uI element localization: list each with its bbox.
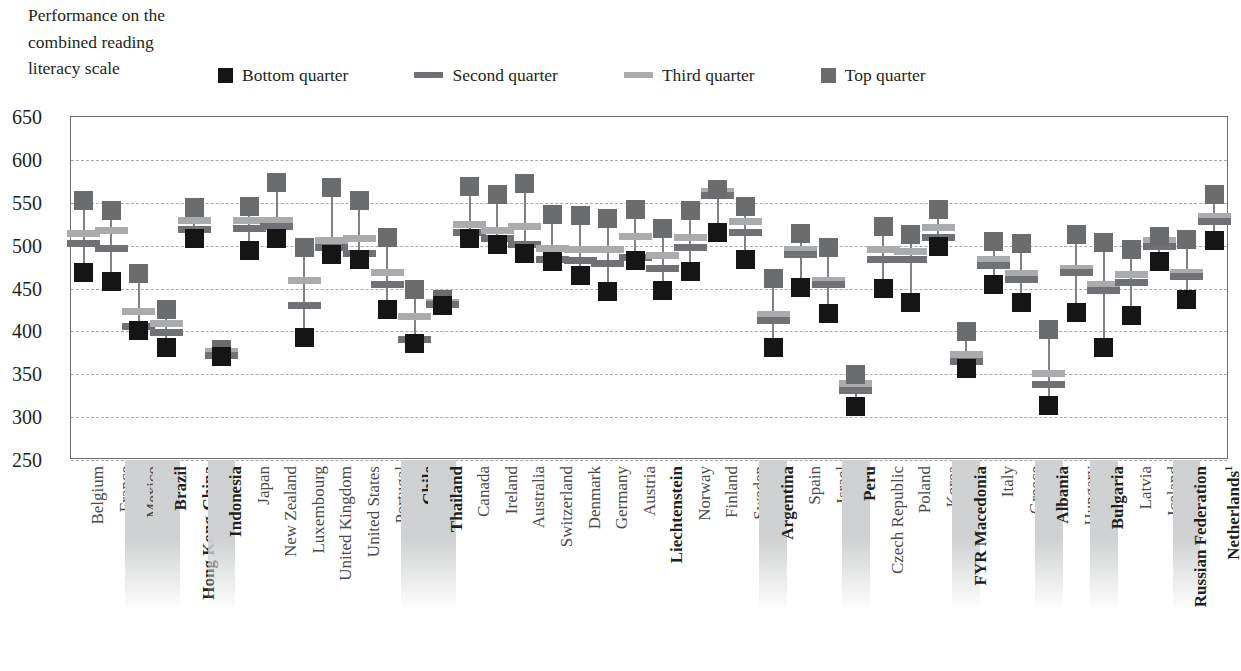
data-point-group[interactable]: [1200, 116, 1228, 459]
x-axis-label-united-kingdom[interactable]: United Kingdom: [318, 460, 346, 671]
x-axis-label-switzerland[interactable]: Switzerland: [539, 460, 567, 671]
x-axis-label-netherlands[interactable]: Netherlands1: [1200, 460, 1228, 671]
top-quarter-marker: [1205, 185, 1224, 204]
x-axis-label-finland[interactable]: Finland: [704, 460, 732, 671]
x-axis-label-thailand[interactable]: Thailand: [428, 460, 456, 671]
x-axis-label-norway[interactable]: Norway: [677, 460, 705, 671]
x-axis-label-ireland[interactable]: Ireland: [484, 460, 512, 671]
data-point-group[interactable]: [1145, 116, 1173, 459]
x-axis-label-hong-kong-china[interactable]: Hong Kong-China: [180, 460, 208, 671]
x-axis-label-canada[interactable]: Canada: [456, 460, 484, 671]
legend-item-bottom-quarter[interactable]: Bottom quarter: [218, 65, 348, 86]
title-line-2: combined reading: [28, 29, 218, 56]
x-axis-label-chile[interactable]: Chile: [401, 460, 429, 671]
bottom-quarter-marker: [102, 272, 121, 291]
data-point-group[interactable]: [1173, 116, 1201, 459]
data-point-group[interactable]: [318, 116, 346, 459]
legend-item-top-quarter[interactable]: Top quarter: [821, 65, 926, 86]
data-point-group[interactable]: [70, 116, 98, 459]
x-axis-label-fyr-macedonia[interactable]: FYR Macedonia: [952, 460, 980, 671]
x-axis-label-indonesia[interactable]: Indonesia: [208, 460, 236, 671]
data-point-group[interactable]: [1063, 116, 1091, 459]
data-point-group[interactable]: [787, 116, 815, 459]
data-point-group[interactable]: [677, 116, 705, 459]
data-point-group[interactable]: [759, 116, 787, 459]
bottom-quarter-marker: [295, 328, 314, 347]
x-axis-label-hungary[interactable]: Hungary: [1063, 460, 1091, 671]
x-axis-label-iceland[interactable]: Iceland: [1145, 460, 1173, 671]
x-axis-label-sweden[interactable]: Sweden: [732, 460, 760, 671]
data-point-group[interactable]: [235, 116, 263, 459]
x-axis-label-liechtenstein[interactable]: Liechtenstein: [649, 460, 677, 671]
x-axis-label-spain[interactable]: Spain: [787, 460, 815, 671]
top-quarter-marker: [791, 224, 810, 243]
x-axis-label-japan[interactable]: Japan: [235, 460, 263, 671]
legend-item-third-quarter[interactable]: Third quarter: [624, 65, 755, 86]
x-axis-label-argentina[interactable]: Argentina: [759, 460, 787, 671]
data-point-group[interactable]: [1007, 116, 1035, 459]
x-axis-label-mexico[interactable]: Mexico: [125, 460, 153, 671]
x-axis-label-austria[interactable]: Austria: [621, 460, 649, 671]
x-axis-label-germany[interactable]: Germany: [594, 460, 622, 671]
x-axis-label-brazil[interactable]: Brazil: [153, 460, 181, 671]
x-axis-label-latvia[interactable]: Latvia: [1118, 460, 1146, 671]
data-point-group[interactable]: [511, 116, 539, 459]
data-point-group[interactable]: [346, 116, 374, 459]
x-axis-label-new-zealand[interactable]: New Zealand: [263, 460, 291, 671]
third-quarter-marker: [674, 234, 707, 241]
data-point-group[interactable]: [98, 116, 126, 459]
data-point-group[interactable]: [649, 116, 677, 459]
x-axis-label-greece[interactable]: Greece: [1007, 460, 1035, 671]
x-axis-label-luxembourg[interactable]: Luxembourg: [291, 460, 319, 671]
data-point-group[interactable]: [263, 116, 291, 459]
data-point-group[interactable]: [732, 116, 760, 459]
x-axis-label-united-states[interactable]: United States: [346, 460, 374, 671]
x-axis-label-italy[interactable]: Italy: [980, 460, 1008, 671]
data-point-group[interactable]: [428, 116, 456, 459]
data-point-group[interactable]: [842, 116, 870, 459]
data-point-group[interactable]: [153, 116, 181, 459]
second-quarter-marker: [95, 245, 128, 252]
data-point-group[interactable]: [594, 116, 622, 459]
x-axis-label-albania[interactable]: Albania: [1035, 460, 1063, 671]
legend-item-second-quarter[interactable]: Second quarter: [414, 65, 557, 86]
bottom-quarter-marker: [1012, 293, 1031, 312]
data-point-group[interactable]: [704, 116, 732, 459]
x-axis-label-bulgaria[interactable]: Bulgaria: [1090, 460, 1118, 671]
data-point-group[interactable]: [291, 116, 319, 459]
data-point-group[interactable]: [814, 116, 842, 459]
x-axis-label-israel[interactable]: Israel: [814, 460, 842, 671]
data-point-group[interactable]: [980, 116, 1008, 459]
data-point-group[interactable]: [456, 116, 484, 459]
top-quarter-marker: [846, 365, 865, 384]
data-point-group[interactable]: [897, 116, 925, 459]
data-point-group[interactable]: [401, 116, 429, 459]
x-axis-label-czech-republic[interactable]: Czech Republic: [870, 460, 898, 671]
data-point-group[interactable]: [621, 116, 649, 459]
data-point-group[interactable]: [925, 116, 953, 459]
data-point-group[interactable]: [566, 116, 594, 459]
x-axis-label-russian-federation[interactable]: Russian Federation: [1173, 460, 1201, 671]
data-point-group[interactable]: [539, 116, 567, 459]
top-quarter-marker: [488, 185, 507, 204]
x-axis-label-poland[interactable]: Poland: [897, 460, 925, 671]
data-point-group[interactable]: [125, 116, 153, 459]
bottom-quarter-marker: [488, 235, 507, 254]
x-axis-label-belgium[interactable]: Belgium: [70, 460, 98, 671]
data-point-group[interactable]: [373, 116, 401, 459]
bottom-quarter-marker: [957, 359, 976, 378]
x-axis-label-korea[interactable]: Korea: [925, 460, 953, 671]
data-point-group[interactable]: [870, 116, 898, 459]
data-point-group[interactable]: [1035, 116, 1063, 459]
data-point-group[interactable]: [208, 116, 236, 459]
x-axis-label-denmark[interactable]: Denmark: [566, 460, 594, 671]
data-point-group[interactable]: [1118, 116, 1146, 459]
data-point-group[interactable]: [484, 116, 512, 459]
data-point-group[interactable]: [952, 116, 980, 459]
x-axis-label-australia[interactable]: Australia: [511, 460, 539, 671]
data-point-group[interactable]: [1090, 116, 1118, 459]
x-axis-label-peru[interactable]: Peru: [842, 460, 870, 671]
x-axis-label-portugal[interactable]: Portugal: [373, 460, 401, 671]
x-axis-label-france[interactable]: France: [98, 460, 126, 671]
data-point-group[interactable]: [180, 116, 208, 459]
